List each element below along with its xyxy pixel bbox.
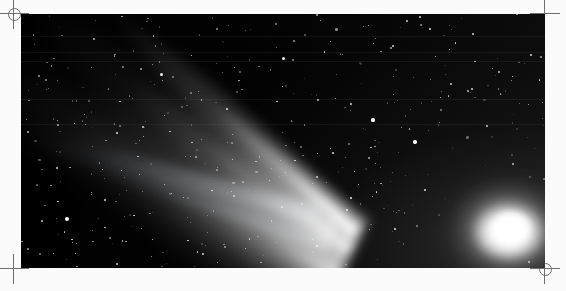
film-grain <box>21 14 545 268</box>
crop-mark-vertical-bar <box>13 254 14 284</box>
crop-mark-horizontal-bar <box>0 268 29 269</box>
photo-page <box>0 0 566 291</box>
comet-photograph <box>21 14 545 268</box>
registration-circle-icon <box>8 8 21 21</box>
